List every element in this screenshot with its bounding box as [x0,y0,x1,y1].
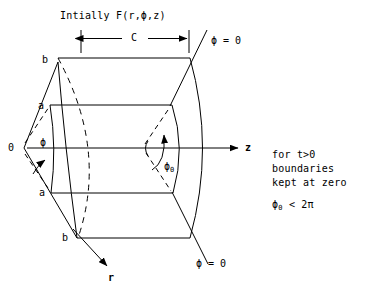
note-inequality: ϕ0 < 2π [272,198,314,213]
note-line-1: for t>0 [272,148,316,162]
left-hidden-edges [25,107,50,191]
right-inner-arc [172,105,179,193]
left-wedge-face [24,62,77,238]
inner-radius-top-label: a [38,99,44,113]
phi-zero-angle-arrow [152,135,164,170]
phi-zero-boundary-top-label: ϕ = 0 [211,34,241,48]
z-axis-label: z [245,141,251,155]
origin-label: 0 [8,141,14,155]
phi-zero-angle-subscript: 0 [170,166,174,174]
phi-zero-bottom-line [172,192,208,264]
figure-title: Intially F(r,ϕ,z) [60,9,166,23]
outer-radius-bottom-label: b [62,231,68,245]
r-axis [73,229,107,266]
right-hidden-radial-edges [145,107,171,191]
note-line-2: boundaries [272,162,334,176]
outer-radius-top-label: b [42,53,48,67]
left-outer-arc [58,62,77,238]
dimension-label-c: C [131,31,137,45]
inequality-rest: < 2π [283,199,314,210]
left-inner-arc [50,105,54,193]
note-line-3: kept at zero [272,176,347,190]
r-axis-label: r [108,271,114,285]
phi-zero-angle-label: ϕ0 [164,160,174,175]
phi-zero-boundary-bottom-label: ϕ = 0 [196,257,226,271]
figure-canvas: Intially F(r,ϕ,z) C ϕ = 0 ϕ = 0 b a a b … [0,0,367,295]
phi-angle-label: ϕ [40,136,46,150]
inner-radius-bottom-label: a [39,186,45,200]
